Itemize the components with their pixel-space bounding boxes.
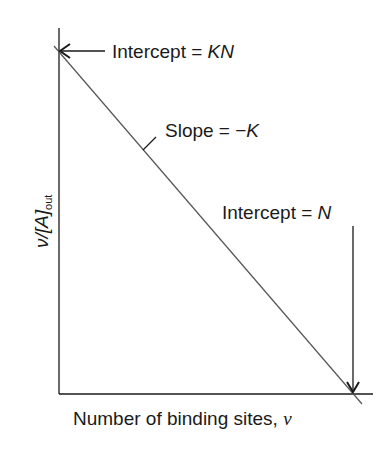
y-intercept-label: Intercept = KN — [112, 41, 234, 62]
x-axis-label: Number of binding sites, ν — [73, 408, 292, 429]
scatchard-line — [54, 46, 362, 404]
y-axis-label: ν/[A]out — [31, 195, 54, 248]
slope-leader — [143, 137, 156, 150]
scatchard-plot: Intercept = KN Slope = −K Intercept = N … — [0, 0, 392, 455]
x-intercept-label: Intercept = N — [222, 202, 332, 223]
slope-label: Slope = −K — [165, 120, 260, 141]
